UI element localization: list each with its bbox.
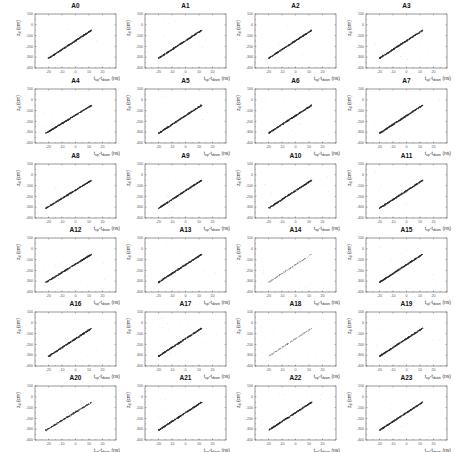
x-tick-label: -10 bbox=[279, 70, 284, 74]
y-tick-label: -400 bbox=[246, 141, 253, 145]
x-tick-label: -20 bbox=[156, 442, 161, 446]
y-tick-label: -200 bbox=[136, 269, 143, 273]
x-tick-label: -20 bbox=[377, 70, 382, 74]
scatter-panel-a4: A41000-100-200-300-400-20-1001020zd (cm)… bbox=[0, 75, 110, 150]
y-tick-label: 100 bbox=[247, 384, 253, 388]
panel-title: A9 bbox=[181, 152, 190, 159]
y-tick-label: -100 bbox=[136, 258, 143, 262]
x-tick-label: -10 bbox=[390, 70, 395, 74]
x-tick-label: 10 bbox=[418, 442, 422, 446]
y-tick-label: 100 bbox=[247, 162, 253, 166]
y-tick-label: -300 bbox=[357, 130, 364, 134]
y-tick-label: -400 bbox=[357, 66, 364, 70]
scatter-points bbox=[45, 174, 92, 216]
y-tick-label: -400 bbox=[26, 66, 33, 70]
y-tick-label: -300 bbox=[246, 279, 253, 283]
y-tick-label: 100 bbox=[247, 12, 253, 16]
scatter-points bbox=[375, 24, 428, 63]
panel-title: A22 bbox=[290, 374, 302, 381]
x-tick-label: -10 bbox=[279, 145, 284, 149]
y-tick-label: -300 bbox=[357, 205, 364, 209]
panel-title: A21 bbox=[180, 374, 192, 381]
y-tick-label: -400 bbox=[136, 290, 143, 294]
x-tick-label: -10 bbox=[279, 442, 284, 446]
y-tick-label: -400 bbox=[136, 66, 143, 70]
panel-title: A1 bbox=[181, 2, 190, 9]
y-tick-label: 0 bbox=[141, 98, 143, 102]
scatter-panel-a2: A21000-100-200-300-400-20-1001020zd (cm)… bbox=[220, 0, 330, 75]
y-tick-label: -400 bbox=[246, 290, 253, 294]
y-tick-label: 100 bbox=[27, 87, 33, 91]
x-tick-label: -20 bbox=[377, 442, 382, 446]
panel-title: A12 bbox=[70, 226, 82, 233]
scatter-panel-a6: A61000-100-200-300-400-20-1001020zd (cm)… bbox=[220, 75, 330, 150]
y-tick-label: -200 bbox=[26, 269, 33, 273]
y-tick-label: -200 bbox=[357, 120, 364, 124]
panel-title: A6 bbox=[291, 77, 300, 84]
y-tick-label: -400 bbox=[357, 290, 364, 294]
y-tick-label: 100 bbox=[247, 87, 253, 91]
y-axis-label: zd (cm) bbox=[15, 318, 22, 334]
x-tick-label: -10 bbox=[59, 442, 64, 446]
y-tick-label: -100 bbox=[136, 34, 143, 38]
y-tick-label: -300 bbox=[357, 279, 364, 283]
x-tick-label: -20 bbox=[156, 70, 161, 74]
scatter-points bbox=[44, 254, 105, 286]
panel-title: A8 bbox=[71, 152, 80, 159]
scatter-points bbox=[45, 27, 97, 61]
scatter-points bbox=[262, 319, 327, 361]
y-axis-label: zd (cm) bbox=[125, 392, 132, 408]
y-tick-label: 100 bbox=[247, 236, 253, 240]
scatter-panel-a7: A71000-100-200-300-400-20-1001020zd (cm)… bbox=[331, 75, 441, 150]
plot-frame bbox=[35, 238, 116, 292]
x-tick-label: 10 bbox=[418, 70, 422, 74]
y-tick-label: 100 bbox=[247, 310, 253, 314]
y-tick-label: -300 bbox=[246, 55, 253, 59]
panel-title: A19 bbox=[401, 300, 413, 307]
y-tick-label: -300 bbox=[26, 130, 33, 134]
y-tick-label: -100 bbox=[246, 332, 253, 336]
y-axis-label: zd (cm) bbox=[346, 318, 353, 334]
y-tick-label: -300 bbox=[136, 353, 143, 357]
y-tick-label: 0 bbox=[31, 173, 33, 177]
y-tick-label: -300 bbox=[246, 427, 253, 431]
x-tick-label: 20 bbox=[211, 442, 215, 446]
panel-title: A7 bbox=[402, 77, 411, 84]
y-axis-label: zd (cm) bbox=[235, 95, 242, 111]
x-tick-label: -20 bbox=[266, 70, 271, 74]
y-tick-label: -300 bbox=[246, 130, 253, 134]
x-tick-label: 20 bbox=[321, 442, 325, 446]
y-tick-label: -300 bbox=[136, 130, 143, 134]
y-tick-label: -200 bbox=[246, 343, 253, 347]
scatter-panel-a17: A171000-100-200-300-400-20-1001020zd (cm… bbox=[110, 298, 220, 373]
y-tick-label: -300 bbox=[246, 353, 253, 357]
y-axis-label: zd (cm) bbox=[125, 318, 132, 334]
y-tick-label: -100 bbox=[357, 332, 364, 336]
x-tick-label: 20 bbox=[211, 145, 215, 149]
panel-title: A2 bbox=[291, 2, 300, 9]
x-tick-label: 0 bbox=[406, 70, 408, 74]
x-tick-label: 20 bbox=[101, 70, 105, 74]
x-tick-label: -10 bbox=[169, 70, 174, 74]
y-tick-label: -200 bbox=[246, 417, 253, 421]
y-tick-label: -100 bbox=[246, 406, 253, 410]
scatter-panel-a10: A101000-100-200-300-400-20-1001020zd (cm… bbox=[220, 150, 330, 225]
x-tick-label: -20 bbox=[156, 145, 161, 149]
y-axis-label: zd (cm) bbox=[235, 170, 242, 186]
y-tick-label: -400 bbox=[26, 141, 33, 145]
x-tick-label: 0 bbox=[75, 442, 77, 446]
x-tick-label: -10 bbox=[169, 442, 174, 446]
y-tick-label: -400 bbox=[246, 438, 253, 442]
panel-title: A17 bbox=[180, 300, 192, 307]
y-tick-label: -400 bbox=[26, 290, 33, 294]
y-axis-label: zd (cm) bbox=[15, 170, 22, 186]
y-tick-label: -400 bbox=[246, 216, 253, 220]
y-tick-label: -100 bbox=[357, 184, 364, 188]
panel-title: A4 bbox=[71, 77, 80, 84]
y-tick-label: 0 bbox=[31, 23, 33, 27]
x-tick-label: -10 bbox=[169, 145, 174, 149]
x-tick-label: 0 bbox=[185, 442, 187, 446]
y-tick-label: -200 bbox=[26, 417, 33, 421]
y-axis-label: zd (cm) bbox=[235, 20, 242, 36]
y-tick-label: 0 bbox=[251, 23, 253, 27]
